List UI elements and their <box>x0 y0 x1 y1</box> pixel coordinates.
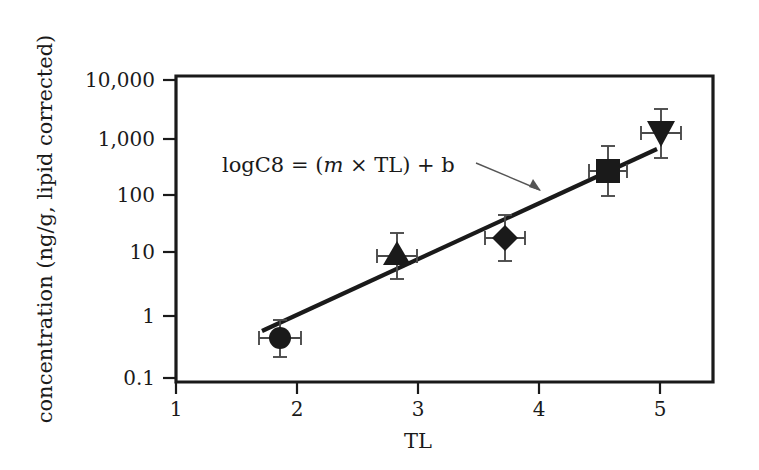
equation-part2: × TL) + b <box>343 153 454 177</box>
y-tick-label-1: 1 <box>142 304 155 328</box>
y-axis-title: concentration (ng/g, lipid corrected) <box>33 35 57 424</box>
x-tick-label-1: 1 <box>170 397 183 421</box>
y-tick-label-10000: 10,000 <box>85 68 155 92</box>
x-tick-label-2: 2 <box>291 397 304 421</box>
figure-container: 10,000 1,000 100 10 1 0.1 1 2 3 4 5 TL c… <box>0 0 759 470</box>
y-tick-label-10: 10 <box>130 240 155 264</box>
y-tick-label-0.1: 0.1 <box>123 366 155 390</box>
y-tick-label-1000: 1,000 <box>98 127 155 151</box>
x-tick-label-4: 4 <box>533 397 546 421</box>
x-tick-label-3: 3 <box>412 397 425 421</box>
y-tick-label-100: 100 <box>117 183 155 207</box>
equation-annotation: logC8 = (m × TL) + b <box>222 153 455 177</box>
equation-italic-m: m <box>323 153 343 177</box>
marker-circle <box>269 327 291 349</box>
concentration-vs-tl-chart: 10,000 1,000 100 10 1 0.1 1 2 3 4 5 TL c… <box>0 0 759 470</box>
x-tick-label-5: 5 <box>654 397 667 421</box>
marker-square <box>596 159 620 183</box>
x-axis-title: TL <box>404 429 432 453</box>
equation-part1: logC8 = ( <box>222 153 323 177</box>
